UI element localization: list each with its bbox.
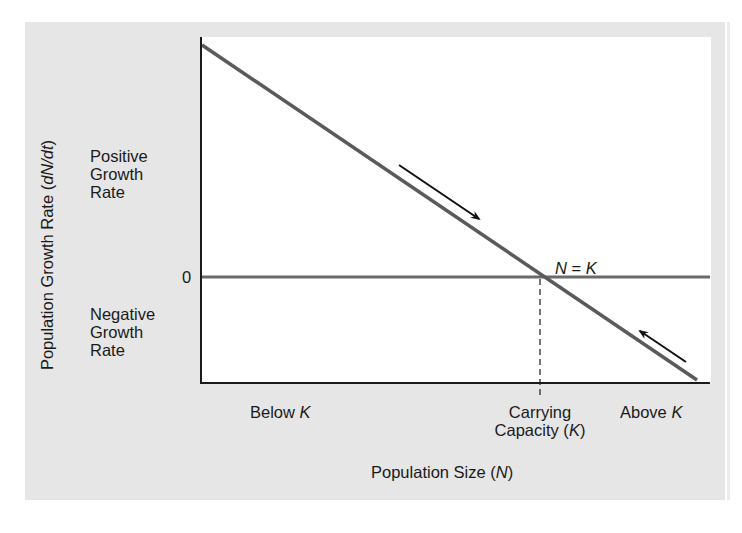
carrying-capacity-label: Carrying Capacity (K) <box>482 403 598 439</box>
chart-svg <box>0 0 742 533</box>
negative-growth-label: NegativeGrowthRate <box>90 305 155 359</box>
plot-area <box>201 37 711 383</box>
x-axis-label: Population Size (N) <box>371 463 513 481</box>
y-axis-label: Population Growth Rate (dN/dt) <box>38 140 57 370</box>
positive-growth-label: PositiveGrowthRate <box>90 147 148 201</box>
below-k-label: Below K <box>250 403 311 421</box>
above-k-label: Above K <box>620 403 682 421</box>
zero-tick-label: 0 <box>182 268 191 286</box>
n-equals-k-label: N = K <box>555 259 597 277</box>
